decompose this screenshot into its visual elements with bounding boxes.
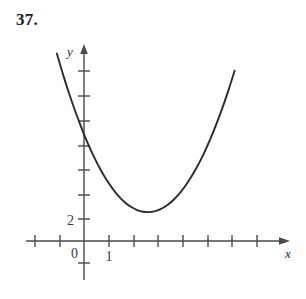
- y-axis-label: y: [65, 44, 73, 59]
- y-tick-label-2: 2: [67, 213, 74, 228]
- x-tick-label-1: 1: [106, 249, 113, 264]
- x-axis-label: x: [284, 246, 291, 261]
- figure-container: 37. y x 2 0 1: [0, 0, 306, 299]
- parabola-graph: y x 2 0 1: [0, 0, 306, 299]
- x-axis-arrowhead: [279, 237, 290, 244]
- origin-label: 0: [71, 246, 78, 261]
- y-axis-arrowhead: [80, 44, 88, 54]
